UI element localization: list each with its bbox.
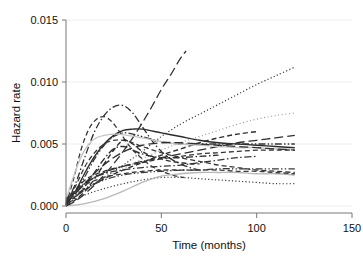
y-tick-label-0: 0.000 xyxy=(30,200,58,212)
y-tick-label-3: 0.015 xyxy=(30,14,58,26)
x-tick-label-3: 150 xyxy=(343,222,361,234)
hazard-rate-chart-figure: 0.0000.0050.0100.015 050100150 Hazard ra… xyxy=(0,0,363,260)
y-axis-title: Hazard rate xyxy=(10,83,22,143)
x-tick-label-0: 0 xyxy=(63,222,69,234)
y-tick-label-2: 0.010 xyxy=(30,76,58,88)
figure-background xyxy=(0,0,363,260)
hazard-rate-plot: 0.0000.0050.0100.015 050100150 Hazard ra… xyxy=(0,0,363,260)
x-tick-label-1: 50 xyxy=(155,222,167,234)
y-tick-label-1: 0.005 xyxy=(30,138,58,150)
x-axis-title: Time (months) xyxy=(172,239,246,251)
x-tick-label-2: 100 xyxy=(247,222,265,234)
